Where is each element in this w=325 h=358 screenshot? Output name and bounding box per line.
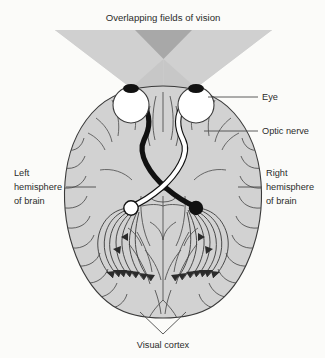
visual-pathway-diagram: Overlapping fields of vision (0, 0, 325, 358)
brain-group (64, 86, 262, 318)
right-eye-pupil (188, 84, 204, 93)
diagram-canvas: Overlapping fields of vision (0, 0, 325, 358)
label-eye: Eye (262, 92, 278, 102)
svg-text:of brain: of brain (14, 196, 45, 206)
svg-text:Left: Left (14, 168, 30, 178)
svg-text:hemisphere: hemisphere (266, 182, 314, 192)
label-optic-nerve: Optic nerve (262, 126, 309, 136)
left-eye-pupil (123, 84, 139, 93)
right-lateral-geniculate-node (189, 201, 203, 215)
label-visual-cortex: Visual cortex (137, 340, 190, 350)
svg-text:Right: Right (266, 168, 288, 178)
title-overlapping-fields: Overlapping fields of vision (106, 12, 221, 23)
left-lateral-geniculate-node (124, 201, 138, 215)
svg-text:hemisphere: hemisphere (14, 182, 62, 192)
svg-text:of brain: of brain (266, 196, 297, 206)
